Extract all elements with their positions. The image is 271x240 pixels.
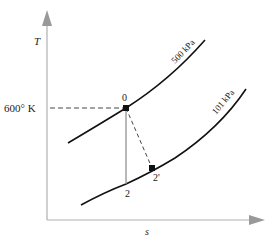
curve-500kpa-label: 500 kPa <box>169 37 197 65</box>
ts-diagram: T s 600° K 0 2 2' 500 kPa 101 kPa <box>0 0 271 240</box>
y-axis-label: T <box>34 35 41 47</box>
actual-process-line <box>126 108 152 168</box>
point-2prime-label: 2' <box>153 172 160 183</box>
point-0-marker <box>123 105 129 111</box>
point-0-label: 0 <box>122 92 127 103</box>
point-2prime-marker <box>149 165 155 171</box>
point-2-label: 2 <box>125 188 130 199</box>
temperature-label: 600° K <box>4 102 36 114</box>
x-axis-arrow-icon <box>249 215 265 225</box>
x-axis-label: s <box>145 226 149 237</box>
y-axis-arrow-icon <box>42 10 52 26</box>
curve-101kpa-label: 101 kPa <box>210 87 236 116</box>
